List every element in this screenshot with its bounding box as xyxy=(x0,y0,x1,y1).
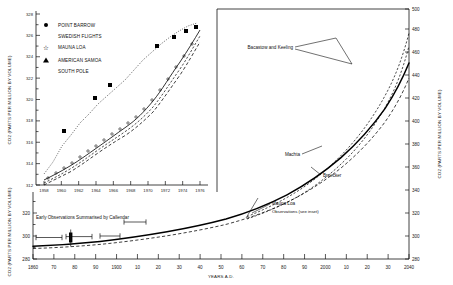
inset-xtick-label-1974: 1974 xyxy=(178,188,188,193)
inset-xtick-label-1966: 1966 xyxy=(109,188,119,193)
right-ytick-480: 480 xyxy=(412,27,420,32)
legend-symbol-open-star: ☆ xyxy=(43,44,49,51)
annotation-broecker: Broecker xyxy=(323,173,342,178)
inset-x-ticks xyxy=(44,181,200,185)
main-x-ticks xyxy=(33,254,409,259)
inset-legend: POINT BARROW SWEDISH FLIGHTS ☆ MAUNA LOA… xyxy=(43,23,102,74)
right-ytick-460: 460 xyxy=(412,50,420,55)
inset-marker-mauna-loa xyxy=(103,139,105,141)
main-xtick-label-10: 10 xyxy=(344,265,350,270)
main-xtick-label-2000: 2000 xyxy=(320,265,331,270)
main-xtick-label-70: 70 xyxy=(51,265,57,270)
main-ytick-320: 320 xyxy=(22,211,30,216)
curve-bacastow-keeling-lower xyxy=(247,46,409,219)
legend-label-swedish-flights: SWEDISH FLIGHTS xyxy=(58,34,102,39)
right-ytick-420: 420 xyxy=(412,96,420,101)
inset-marker-mauna-loa xyxy=(127,122,129,124)
main-xtick-label-80: 80 xyxy=(281,265,287,270)
legend-label-mauna-loa: MAUNA LOA xyxy=(58,45,87,50)
main-xtick-label-20: 20 xyxy=(156,265,162,270)
inset-marker-mauna-loa xyxy=(79,156,81,158)
right-ytick-400: 400 xyxy=(412,119,420,124)
main-xtick-label-30: 30 xyxy=(177,265,183,270)
main-xtick-label-50: 50 xyxy=(218,265,224,270)
legend-label-american-samoa: AMERICAN SAMOA xyxy=(58,58,102,63)
main-xtick-label-60: 60 xyxy=(239,265,245,270)
main-annotations: Bacastow and Keeling Machta Broecker Mau… xyxy=(246,38,352,218)
main-x-tick-labels: 1860708090190010203040506070809020001020… xyxy=(28,265,415,270)
main-axes xyxy=(33,9,409,259)
main-xtick-label-2040: 2040 xyxy=(404,265,415,270)
main-xtick-label-80: 80 xyxy=(72,265,78,270)
inset-ytick-label-320: 320 xyxy=(26,97,34,102)
inset-y-axis-title: CO2 (PARTS PER MILLION BY VOLUME) xyxy=(7,55,12,144)
main-xtick-label-70: 70 xyxy=(260,265,266,270)
inset-xtick-label-1976: 1976 xyxy=(195,188,205,193)
right-ytick-320: 320 xyxy=(412,211,420,216)
co2-projection-figure: 280 300 320 280 300 320 340 360 380 400 xyxy=(0,0,453,285)
inset-marker-mauna-loa xyxy=(87,150,89,152)
inset-ytick-label-314: 314 xyxy=(26,161,34,166)
inset-x-tick-labels: 1958196019621964196619681970197219741976 xyxy=(39,188,205,193)
main-x-axis-title: YEARS A.D. xyxy=(208,274,234,279)
main-xtick-label-1860: 1860 xyxy=(28,265,39,270)
legend-label-south-pole: SOUTH POLE xyxy=(58,69,89,74)
inset-xtick-label-1972: 1972 xyxy=(161,188,171,193)
inset-marker-mauna-loa xyxy=(151,99,153,101)
right-ytick-380: 380 xyxy=(412,142,420,147)
annotation-mauna-loa-line1: Mauna Loa xyxy=(272,201,295,206)
inset-marker-mauna-loa xyxy=(95,145,97,147)
main-xtick-label-90: 90 xyxy=(93,265,99,270)
inset-y-tick-labels: 312314316318320322324326328 xyxy=(26,12,34,188)
inset-ytick-label-312: 312 xyxy=(26,183,34,188)
inset-xtick-label-1962: 1962 xyxy=(74,188,84,193)
right-ytick-300: 300 xyxy=(412,234,420,239)
inset-ytick-label-324: 324 xyxy=(26,54,34,59)
right-ytick-360: 360 xyxy=(412,165,420,170)
main-xtick-label-30: 30 xyxy=(386,265,392,270)
inset-xtick-label-1964: 1964 xyxy=(91,188,101,193)
right-ytick-340: 340 xyxy=(412,188,420,193)
main-xtick-label-1900: 1900 xyxy=(111,265,122,270)
curve-broecker xyxy=(33,78,409,249)
inset-ytick-label-328: 328 xyxy=(26,12,34,17)
inset-marker-mauna-loa xyxy=(119,128,121,130)
main-xtick-label-10: 10 xyxy=(135,265,141,270)
legend-symbol-filled-triangle xyxy=(43,58,49,63)
annotation-machta: Machta xyxy=(285,152,301,157)
curve-bacastow-keeling-upper xyxy=(247,33,409,217)
inset-xtick-label-1970: 1970 xyxy=(143,188,153,193)
main-y-axis-title-right: CO2 (PARTS PER MILLION BY VOLUME) xyxy=(437,89,442,178)
inset-curve-mauna-loa xyxy=(44,30,200,180)
inset-xtick-label-1960: 1960 xyxy=(57,188,67,193)
main-y-ticks-left: 280 300 320 xyxy=(22,202,37,263)
inset-ytick-label-322: 322 xyxy=(26,76,34,81)
inset-ytick-label-318: 318 xyxy=(26,118,34,123)
annotation-bacastow-keeling: Bacastow and Keeling xyxy=(248,45,294,50)
main-ytick-280: 280 xyxy=(22,257,30,262)
legend-symbol-filled-circle xyxy=(44,23,48,27)
inset-y-ticks xyxy=(36,14,40,185)
main-xtick-label-90: 90 xyxy=(302,265,308,270)
right-ytick-280: 280 xyxy=(412,257,420,262)
figure-svg: 280 300 320 280 300 320 340 360 380 400 xyxy=(0,0,453,285)
right-ytick-440: 440 xyxy=(412,73,420,78)
annotation-callendar: Early Observations Summarised by Callend… xyxy=(36,215,129,220)
inset-marker-mauna-loa xyxy=(71,162,73,164)
legend-label-point-barrow: POINT BARROW xyxy=(58,23,96,28)
main-xtick-label-40: 40 xyxy=(198,265,204,270)
annotation-mauna-loa-line2: Observations (see inset) xyxy=(272,209,319,214)
inset-ytick-label-326: 326 xyxy=(26,33,34,38)
inset-marker-mauna-loa xyxy=(135,116,137,118)
inset-xtick-label-1958: 1958 xyxy=(39,188,49,193)
inset-marker-mauna-loa xyxy=(63,167,65,169)
main-y-ticks-right: 280 300 320 340 360 380 400 420 440 460 … xyxy=(405,7,420,262)
inset-marker-mauna-loa xyxy=(143,108,145,110)
main-xtick-label-20: 20 xyxy=(365,265,371,270)
inset-ytick-label-316: 316 xyxy=(26,140,34,145)
right-ytick-500: 500 xyxy=(412,7,420,12)
main-ytick-300: 300 xyxy=(22,234,30,239)
inset-curve-south-pole xyxy=(44,42,200,185)
inset-xtick-label-1968: 1968 xyxy=(126,188,136,193)
main-y-axis-title-left: CO2 (PARTS PER MILLION BY VOLUME) xyxy=(7,187,12,276)
